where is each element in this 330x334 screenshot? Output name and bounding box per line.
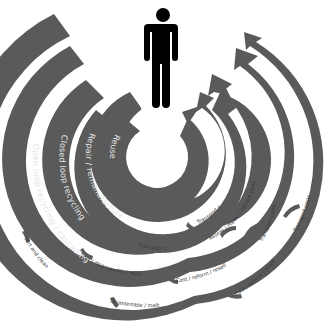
step-label: Cast / reform / resell xyxy=(233,258,276,297)
person-icon xyxy=(144,8,178,108)
circular-economy-diagram: Reuse Repair / remanufacture Closed loop… xyxy=(0,0,330,334)
